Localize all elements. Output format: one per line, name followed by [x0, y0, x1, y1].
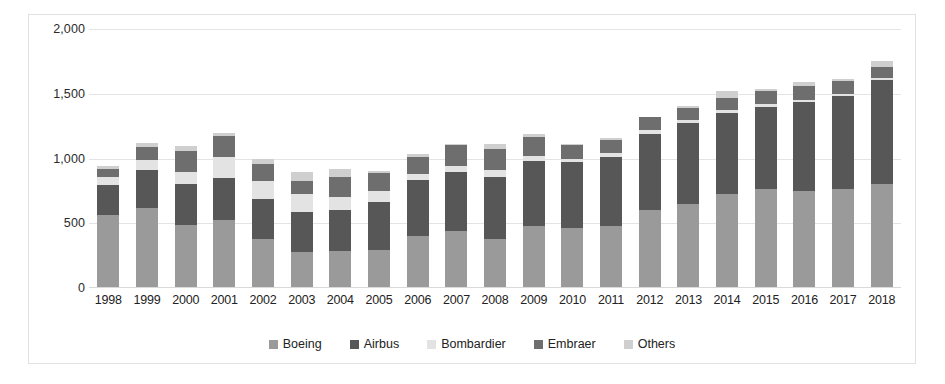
bar-segment-airbus[interactable] — [368, 202, 390, 251]
bar-stack[interactable] — [755, 89, 777, 288]
bar-stack[interactable] — [716, 91, 738, 288]
bar-segment-airbus[interactable] — [291, 212, 313, 251]
bar-segment-bombardier[interactable] — [175, 172, 197, 185]
bar-segment-bombardier[interactable] — [291, 194, 313, 213]
bar-segment-airbus[interactable] — [639, 134, 661, 210]
bar-segment-boeing[interactable] — [832, 189, 854, 288]
bar-segment-embraer[interactable] — [368, 173, 390, 191]
bar-column[interactable] — [476, 29, 515, 288]
bar-segment-boeing[interactable] — [523, 226, 545, 288]
bar-segment-bombardier[interactable] — [252, 181, 274, 199]
bar-segment-boeing[interactable] — [755, 189, 777, 288]
bar-segment-boeing[interactable] — [484, 239, 506, 288]
bar-segment-bombardier[interactable] — [213, 157, 235, 178]
bar-segment-embraer[interactable] — [600, 140, 622, 154]
bar-segment-others[interactable] — [291, 172, 313, 181]
bar-segment-boeing[interactable] — [871, 184, 893, 288]
bar-stack[interactable] — [523, 134, 545, 288]
bar-stack[interactable] — [329, 169, 351, 288]
bar-segment-embraer[interactable] — [175, 151, 197, 172]
bar-segment-boeing[interactable] — [677, 204, 699, 288]
bar-stack[interactable] — [484, 144, 506, 288]
legend-item-bombardier[interactable]: Bombardier — [427, 337, 506, 351]
bar-column[interactable] — [553, 29, 592, 288]
bar-segment-embraer[interactable] — [213, 136, 235, 157]
bar-segment-embraer[interactable] — [407, 157, 429, 174]
bar-segment-others[interactable] — [716, 91, 738, 98]
bar-segment-boeing[interactable] — [600, 226, 622, 288]
bar-segment-embraer[interactable] — [484, 149, 506, 170]
legend-item-boeing[interactable]: Boeing — [269, 337, 322, 351]
bar-stack[interactable] — [832, 79, 854, 288]
bar-stack[interactable] — [252, 159, 274, 288]
bar-segment-airbus[interactable] — [523, 161, 545, 225]
bar-column[interactable] — [166, 29, 205, 288]
bar-segment-boeing[interactable] — [639, 210, 661, 288]
bar-segment-boeing[interactable] — [561, 228, 583, 288]
bar-segment-airbus[interactable] — [871, 80, 893, 184]
bar-segment-airbus[interactable] — [97, 185, 119, 215]
bar-segment-airbus[interactable] — [329, 210, 351, 251]
legend-item-airbus[interactable]: Airbus — [350, 337, 399, 351]
bar-column[interactable] — [708, 29, 747, 288]
bar-column[interactable] — [398, 29, 437, 288]
bar-segment-embraer[interactable] — [252, 164, 274, 181]
bar-segment-boeing[interactable] — [252, 239, 274, 288]
bar-stack[interactable] — [368, 171, 390, 288]
bar-segment-boeing[interactable] — [175, 225, 197, 288]
bar-segment-boeing[interactable] — [716, 194, 738, 288]
bar-segment-bombardier[interactable] — [368, 191, 390, 202]
bar-stack[interactable] — [97, 166, 119, 288]
bar-column[interactable] — [205, 29, 244, 288]
bar-segment-embraer[interactable] — [291, 181, 313, 194]
bar-segment-bombardier[interactable] — [329, 197, 351, 210]
bar-segment-boeing[interactable] — [213, 220, 235, 288]
bar-column[interactable] — [862, 29, 901, 288]
bar-segment-embraer[interactable] — [677, 108, 699, 120]
bar-segment-boeing[interactable] — [97, 215, 119, 288]
bar-segment-embraer[interactable] — [716, 98, 738, 110]
bar-segment-embraer[interactable] — [523, 137, 545, 157]
bar-stack[interactable] — [291, 172, 313, 288]
bar-segment-others[interactable] — [329, 169, 351, 178]
bar-column[interactable] — [128, 29, 167, 288]
bar-segment-boeing[interactable] — [136, 208, 158, 288]
bar-stack[interactable] — [561, 144, 583, 288]
bar-segment-airbus[interactable] — [677, 123, 699, 204]
bar-segment-airbus[interactable] — [561, 162, 583, 228]
bar-segment-airbus[interactable] — [484, 177, 506, 240]
bar-segment-bombardier[interactable] — [136, 160, 158, 170]
bar-column[interactable] — [437, 29, 476, 288]
bar-column[interactable] — [244, 29, 283, 288]
bar-stack[interactable] — [677, 106, 699, 288]
bar-column[interactable] — [824, 29, 863, 288]
bar-segment-embraer[interactable] — [793, 86, 815, 100]
bar-segment-embraer[interactable] — [445, 145, 467, 166]
bar-segment-boeing[interactable] — [407, 236, 429, 288]
bar-segment-bombardier[interactable] — [97, 177, 119, 186]
bar-segment-boeing[interactable] — [793, 191, 815, 288]
bar-segment-airbus[interactable] — [716, 113, 738, 194]
bar-column[interactable] — [282, 29, 321, 288]
bar-segment-boeing[interactable] — [445, 231, 467, 288]
bar-segment-boeing[interactable] — [291, 252, 313, 288]
bar-column[interactable] — [360, 29, 399, 288]
bar-column[interactable] — [514, 29, 553, 288]
legend-item-others[interactable]: Others — [624, 337, 676, 351]
bar-stack[interactable] — [175, 146, 197, 288]
bar-segment-embraer[interactable] — [639, 117, 661, 131]
bar-column[interactable] — [785, 29, 824, 288]
bar-stack[interactable] — [871, 61, 893, 288]
bar-column[interactable] — [592, 29, 631, 288]
bar-stack[interactable] — [793, 82, 815, 288]
bar-segment-airbus[interactable] — [600, 157, 622, 226]
bar-segment-embraer[interactable] — [561, 145, 583, 159]
bar-segment-airbus[interactable] — [136, 170, 158, 208]
bar-segment-airbus[interactable] — [175, 184, 197, 224]
bar-stack[interactable] — [600, 138, 622, 288]
bar-segment-airbus[interactable] — [755, 107, 777, 189]
bar-stack[interactable] — [136, 143, 158, 288]
bar-segment-boeing[interactable] — [368, 250, 390, 288]
bar-segment-embraer[interactable] — [97, 169, 119, 177]
bar-segment-boeing[interactable] — [329, 251, 351, 288]
